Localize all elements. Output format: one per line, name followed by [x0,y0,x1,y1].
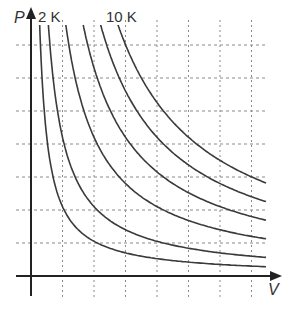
curve-label-low: 2 K [38,9,61,24]
y-axis-label: P [14,10,25,26]
y-axis-arrow-icon [26,7,36,19]
isotherm-curves [40,25,266,267]
grid-lines [16,20,268,300]
isotherm-curve [118,25,266,183]
x-axis-arrow-icon [270,271,282,281]
x-axis-label: V [268,282,279,298]
isotherm-curve [66,25,266,239]
axes [16,7,282,296]
isotherm-curve [40,25,266,267]
curve-label-high: 10 K [106,9,137,24]
isotherm-plot [0,0,291,311]
